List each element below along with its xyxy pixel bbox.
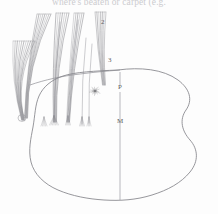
hair-strand: [26, 14, 43, 118]
tuft-e: [41, 117, 47, 126]
label-m: M: [117, 118, 123, 125]
label-p: P: [118, 84, 122, 91]
figure-page: where's beaten or carpet (e.g. 2 3 P M: [0, 0, 218, 214]
hair-bundle-4: [67, 13, 85, 122]
label-2: 2: [101, 19, 105, 26]
figure-canvas: [0, 0, 218, 214]
tuft-c: [80, 117, 85, 126]
starburst-rosette: [89, 87, 100, 96]
tuft-strand: [41, 117, 44, 126]
tuft-strand: [82, 117, 85, 126]
tuft-strand: [80, 117, 83, 126]
hair-tufts-group: [41, 116, 91, 126]
hair-bundle-2: [25, 14, 52, 118]
tuft-a: [50, 116, 59, 125]
long-hair-4: [89, 44, 92, 123]
hair-bundle-3: [53, 13, 69, 122]
upper-ridge-line: [30, 70, 120, 85]
long-hair-3: [82, 38, 86, 124]
tuft-strand: [43, 117, 45, 126]
label-3: 3: [108, 57, 112, 64]
tuft-strand: [44, 117, 46, 126]
tuft-strand: [44, 117, 47, 126]
